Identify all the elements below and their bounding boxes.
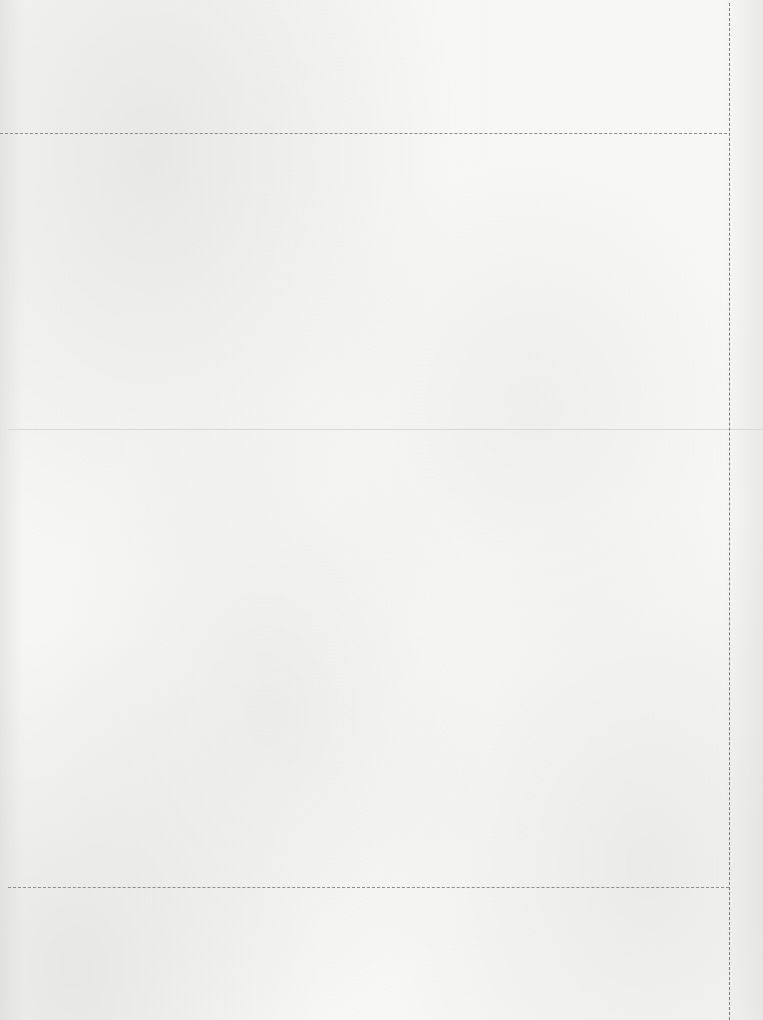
right-cut-line — [729, 3, 730, 1020]
lower-panel — [0, 430, 729, 887]
bottom-strip — [0, 888, 729, 1020]
top-strip — [0, 0, 729, 133]
paper-sheet — [0, 0, 763, 1020]
upper-panel — [0, 134, 729, 429]
